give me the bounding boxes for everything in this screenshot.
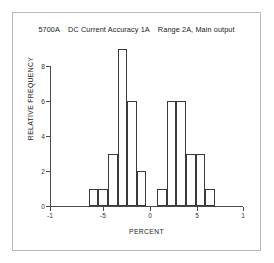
histogram-bar [196, 154, 206, 207]
histogram-bars [50, 66, 243, 206]
histogram-bar [98, 189, 108, 207]
histogram-bar [137, 171, 147, 206]
y-axis-tick-label: 8 [36, 63, 45, 70]
x-axis-tick-label: 0 [148, 212, 152, 219]
histogram-bar [157, 189, 167, 207]
y-axis-tick-label: 2 [36, 168, 45, 175]
x-axis-tick [243, 207, 244, 211]
histogram-bar [205, 189, 215, 207]
y-axis-tick-label: 0 [36, 203, 45, 210]
histogram-bar [186, 154, 196, 207]
histogram-bar [127, 101, 137, 206]
x-axis-tick [197, 207, 198, 211]
histogram-bar [108, 154, 118, 207]
x-axis-tick [50, 207, 51, 211]
y-axis-tick-label: 6 [36, 98, 45, 105]
x-axis-line [50, 206, 243, 207]
y-axis-tick-label: 4 [36, 133, 45, 140]
x-axis-tick-label: -5 [100, 212, 106, 219]
x-axis-tick [103, 207, 104, 211]
histogram-bar [118, 49, 128, 207]
histogram-bar [176, 101, 186, 206]
x-axis-tick-label: 5 [195, 212, 199, 219]
x-axis-tick [150, 207, 151, 211]
histogram-bar [89, 189, 99, 207]
y-axis-label: RELATIVE FREQUENCY [27, 44, 34, 154]
chart-title: 5700A DC Current Accuracy 1A Range 2A, M… [12, 25, 261, 34]
x-axis-tick-label: 1 [241, 212, 245, 219]
x-axis-tick-label: -1 [47, 212, 53, 219]
histogram-figure: 5700A DC Current Accuracy 1A Range 2A, M… [0, 0, 274, 263]
histogram-bar [167, 101, 177, 206]
x-axis-label: PERCENT [50, 228, 243, 235]
